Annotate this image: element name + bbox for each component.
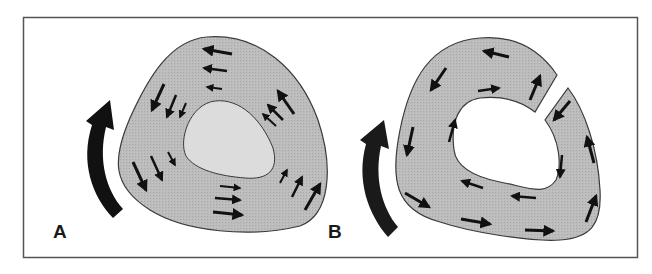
panel-label-a: A <box>53 222 67 241</box>
tissue-ring-broken <box>396 38 601 241</box>
rotation-arrow-icon <box>86 100 123 218</box>
panel-a <box>86 37 327 232</box>
rotation-arrow-icon <box>360 120 398 237</box>
panel-b <box>360 38 600 241</box>
diagram-figure <box>0 0 652 274</box>
panel-label-b: B <box>328 222 342 241</box>
